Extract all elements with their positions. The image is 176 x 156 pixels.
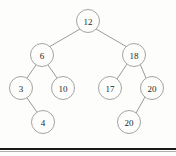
- node-label: 17: [105, 84, 115, 94]
- tree-edge-n3-to-n4: [27, 98, 37, 112]
- tree-edge-n6-to-n3: [27, 65, 36, 78]
- tree-node-10: 10: [52, 77, 75, 100]
- tree-node-20-duplicate: 20: [118, 111, 141, 134]
- tree-node-17: 17: [99, 77, 122, 100]
- node-label: 20: [147, 84, 157, 94]
- tree-node-4: 4: [32, 111, 55, 134]
- node-label: 12: [83, 17, 92, 27]
- tree-edge-n6-to-n10: [48, 65, 57, 78]
- tree-edge-n18-to-n17: [117, 64, 127, 79]
- node-label: 18: [129, 51, 139, 61]
- tree-edge-n18-to-n20: [140, 64, 146, 78]
- tree-node-12: 12: [77, 10, 100, 33]
- tree-node-18: 18: [123, 44, 146, 67]
- tree-edge-layer: [27, 29, 146, 113]
- page-divider-rule-shadow: [0, 151, 176, 152]
- tree-node-20: 20: [141, 77, 164, 100]
- tree-edge-n20-to-n20dup: [136, 97, 145, 113]
- node-label: 4: [41, 118, 46, 128]
- tree-edge-n12-to-n18: [96, 29, 127, 47]
- tree-edge-n12-to-n6: [49, 29, 80, 47]
- node-label: 6: [40, 51, 45, 61]
- node-label: 3: [19, 84, 24, 94]
- node-label: 20: [124, 118, 134, 128]
- node-label: 10: [58, 84, 68, 94]
- binary-tree-diagram: 126183101720420: [0, 0, 176, 156]
- tree-node-6: 6: [31, 44, 54, 67]
- tree-node-layer: 126183101720420: [10, 10, 164, 134]
- binary-tree-figure: 126183101720420: [0, 0, 176, 156]
- tree-node-3: 3: [10, 77, 33, 100]
